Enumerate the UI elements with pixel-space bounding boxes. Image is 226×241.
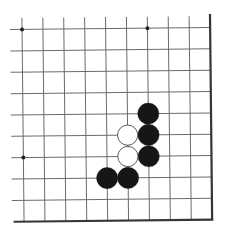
black-stone (96, 167, 117, 188)
board-background (0, 0, 226, 241)
go-board-diagram (0, 0, 226, 241)
black-stone (138, 103, 159, 124)
black-stone (138, 146, 159, 167)
white-stone (118, 146, 138, 166)
black-stone (138, 124, 159, 145)
white-stone (117, 125, 137, 145)
black-stone (117, 167, 138, 188)
